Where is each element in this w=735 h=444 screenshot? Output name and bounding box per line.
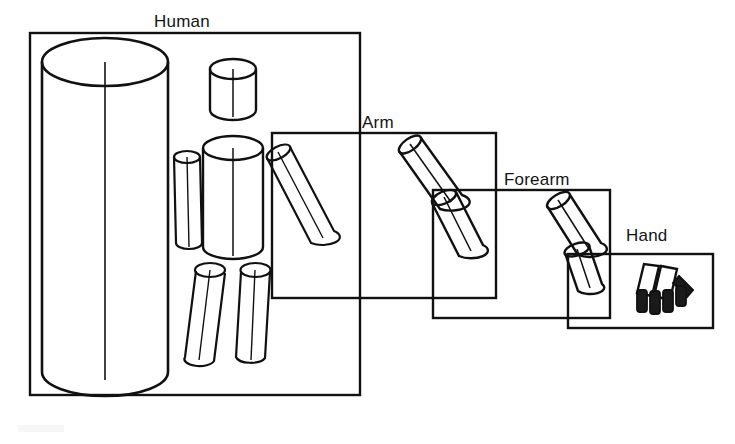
hand-finger-3 <box>663 290 673 312</box>
label-human: Human <box>154 12 210 31</box>
bounding-box-arm[interactable] <box>272 133 496 298</box>
human-bounding-cylinder <box>42 38 168 396</box>
forearm-forearm-cylinder <box>544 189 607 257</box>
human-head-cylinder <box>210 59 256 120</box>
human-right-leg-cylinder <box>236 263 271 363</box>
arm-forearm-cylinder <box>430 187 488 259</box>
label-forearm: Forearm <box>504 170 570 189</box>
human-right-upper-arm-cylinder <box>264 141 340 245</box>
human-torso-cylinder <box>203 136 263 259</box>
hand-finger-1 <box>637 290 647 312</box>
scan-artifact <box>18 425 64 432</box>
human-left-leg-cylinder <box>184 263 225 366</box>
hand-fingers <box>637 286 686 314</box>
label-hand: Hand <box>626 226 667 245</box>
hand-finger-4 <box>676 286 686 306</box>
human-left-upper-arm-cylinder <box>174 151 202 249</box>
hand-finger-2 <box>650 291 660 314</box>
body-hierarchy-diagram <box>0 0 735 444</box>
diagram-canvas: Human Arm Forearm Hand <box>0 0 735 444</box>
label-arm: Arm <box>362 113 394 132</box>
